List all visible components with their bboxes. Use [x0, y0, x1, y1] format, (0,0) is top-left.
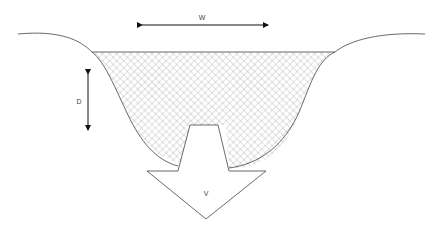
velocity-label: V [204, 190, 209, 197]
channel-cross-section-diagram: W D V [0, 0, 441, 229]
width-label: W [199, 14, 206, 21]
depth-label: D [76, 98, 81, 105]
